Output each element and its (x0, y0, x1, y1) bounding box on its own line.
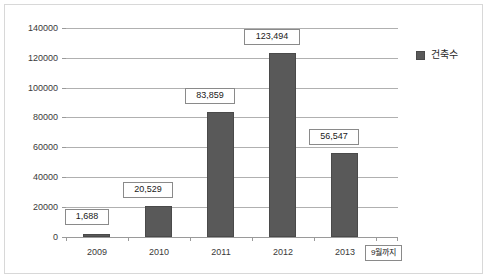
y-axis-tick-label: 0 (53, 233, 58, 242)
bar-2010[interactable] (145, 206, 172, 237)
y-axis-tick-label: 120000 (28, 54, 58, 63)
gridline (66, 58, 398, 59)
bar-2012[interactable] (269, 53, 296, 237)
x-axis-label-2011: 2011 (190, 248, 252, 257)
x-axis-tick-mark (252, 237, 253, 241)
data-label-2012: 123,494 (244, 29, 300, 45)
y-axis-tick-label: 80000 (33, 113, 58, 122)
data-label-2010: 20,529 (123, 182, 173, 198)
chart-legend: 건축수 (416, 50, 458, 60)
y-axis-tick-label: 100000 (28, 84, 58, 93)
x-axis-label-2009: 2009 (66, 248, 128, 257)
x-axis-label-2012: 2012 (252, 248, 314, 257)
axis-note-september: 9월까지 (365, 245, 402, 261)
data-label-2009: 1,688 (65, 209, 109, 225)
bar-2009[interactable] (83, 234, 110, 237)
y-axis-tick-label: 20000 (33, 203, 58, 212)
x-axis-tick-mark (190, 237, 191, 241)
x-axis-tick-mark (128, 237, 129, 241)
x-axis-tick-mark (314, 237, 315, 241)
y-axis-tick-label: 60000 (33, 143, 58, 152)
y-axis-tick-label: 40000 (33, 173, 58, 182)
legend-entry-label: 건축수 (431, 50, 458, 60)
gridline (66, 28, 398, 29)
x-axis-tick-mark (376, 237, 377, 241)
bar-2011[interactable] (207, 112, 234, 237)
y-axis-tick-label: 140000 (28, 24, 58, 33)
x-axis-tick-mark (397, 237, 398, 241)
y-axis-labels: 140000 120000 100000 80000 60000 40000 2… (0, 0, 58, 279)
x-axis-tick-mark (66, 237, 67, 241)
data-label-2011: 83,859 (185, 88, 235, 104)
x-axis-label-2010: 2010 (128, 248, 190, 257)
data-label-2013: 56,547 (309, 129, 359, 145)
square-swatch-icon (416, 51, 425, 60)
x-axis-baseline (66, 237, 398, 238)
chart-container: 140000 120000 100000 80000 60000 40000 2… (0, 0, 488, 279)
bar-2013[interactable] (331, 153, 358, 237)
